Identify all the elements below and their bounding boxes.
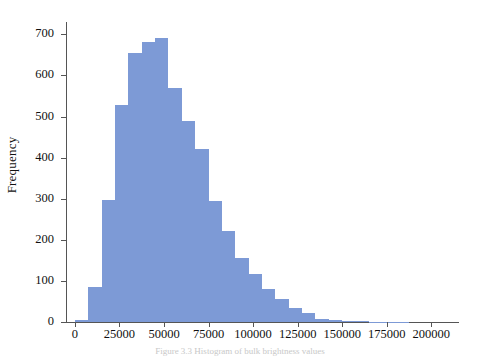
histogram-bar xyxy=(115,105,128,322)
histogram-figure: Frequency 025000500007500010000012500015… xyxy=(0,0,480,358)
histogram-bar xyxy=(195,149,208,322)
histogram-bar xyxy=(168,88,181,322)
y-axis-tick-label: 0 xyxy=(8,315,54,328)
y-axis-tick xyxy=(61,34,66,35)
histogram-bar xyxy=(315,319,328,322)
y-axis-tick-label: 700 xyxy=(8,27,54,40)
x-axis-tick-label: 75000 xyxy=(193,328,224,341)
histogram-bar xyxy=(222,231,235,322)
histogram-bar xyxy=(289,308,302,322)
figure-caption: Figure 3.3 Histogram of bulk brightness … xyxy=(0,346,480,356)
histogram-bar xyxy=(88,287,101,322)
y-axis-tick xyxy=(61,322,66,323)
x-axis-line xyxy=(66,322,459,323)
histogram-bar xyxy=(356,321,369,322)
y-axis-tick-label: 600 xyxy=(8,68,54,81)
x-axis-tick-label: 50000 xyxy=(148,328,179,341)
x-axis-tick-label: 150000 xyxy=(323,328,361,341)
y-axis-tick xyxy=(61,117,66,118)
x-axis-tick-label: 125000 xyxy=(279,328,317,341)
x-axis-tick-label: 175000 xyxy=(368,328,406,341)
histogram-bar xyxy=(142,42,155,322)
histogram-bar xyxy=(128,53,141,322)
y-axis-tick xyxy=(61,75,66,76)
histogram-bar xyxy=(75,320,88,322)
x-axis-tick-label: 0 xyxy=(72,328,78,341)
y-axis-tick xyxy=(61,281,66,282)
y-axis-tick-label: 500 xyxy=(8,110,54,123)
y-axis-tick xyxy=(61,158,66,159)
y-axis-tick-label: 400 xyxy=(8,151,54,164)
histogram-bar xyxy=(262,289,275,322)
x-axis-tick-label: 100000 xyxy=(234,328,272,341)
histogram-bar xyxy=(342,321,355,322)
y-axis-tick-label: 100 xyxy=(8,274,54,287)
y-axis-tick-label: 300 xyxy=(8,192,54,205)
plot-area: 0250005000075000100000125000150000175000… xyxy=(66,22,458,322)
histogram-bar xyxy=(249,274,262,322)
histogram-bar xyxy=(329,320,342,322)
histogram-bar xyxy=(182,121,195,322)
histogram-bar xyxy=(235,258,248,322)
histogram-bar xyxy=(275,299,288,322)
histogram-bar xyxy=(302,313,315,322)
y-axis-tick xyxy=(61,240,66,241)
histogram-bar xyxy=(102,200,115,322)
x-axis-tick-label: 200000 xyxy=(413,328,451,341)
y-axis-tick-label: 200 xyxy=(8,233,54,246)
y-axis-tick xyxy=(61,199,66,200)
histogram-bar xyxy=(209,201,222,322)
x-axis-tick-label: 25000 xyxy=(104,328,135,341)
y-axis-title-text: Frequency xyxy=(4,137,20,194)
histogram-bar xyxy=(155,38,168,322)
